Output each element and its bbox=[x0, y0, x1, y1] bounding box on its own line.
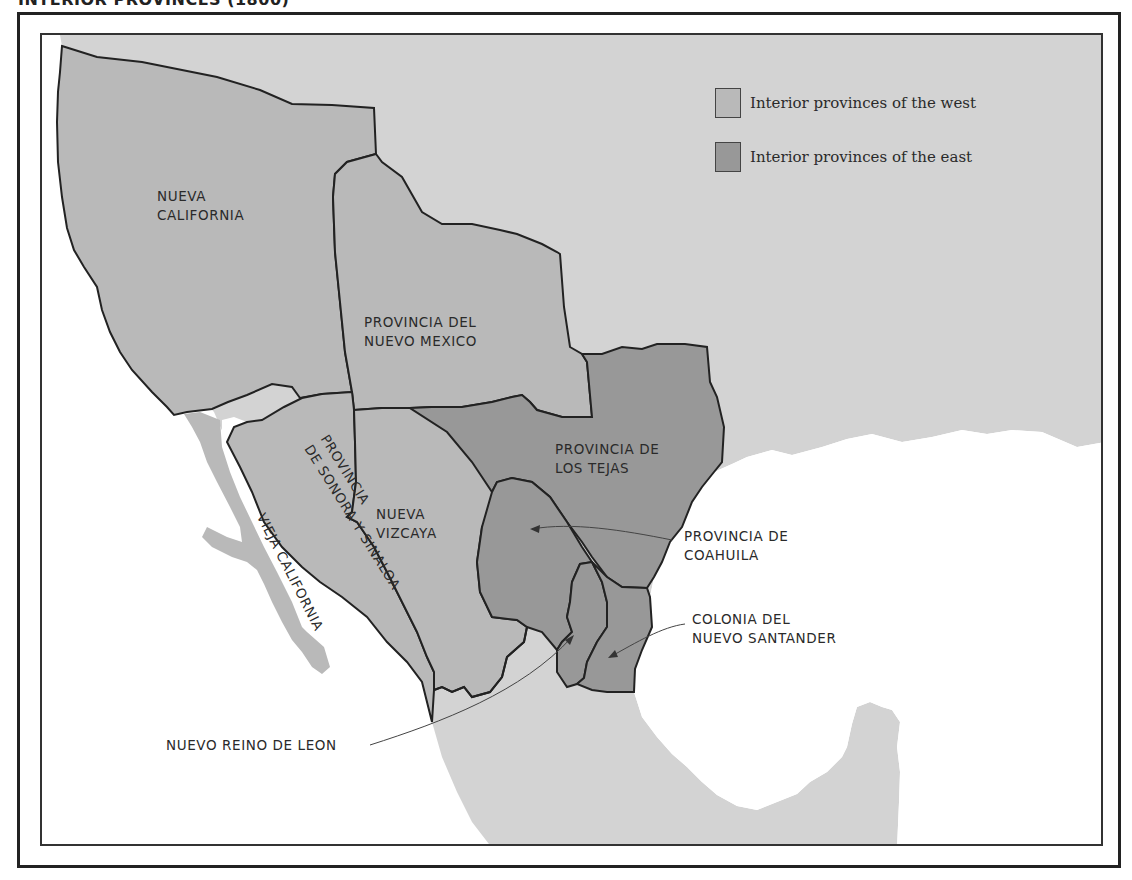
legend-item-east: Interior provinces of the east bbox=[715, 142, 976, 172]
map-legend: Interior provinces of the west Interior … bbox=[715, 88, 976, 196]
legend-label-east: Interior provinces of the east bbox=[750, 148, 972, 166]
label-nuevo-leon: NUEVO REINO DE LEON bbox=[166, 736, 337, 755]
map-title: INTERIOR PROVINCES (1800) bbox=[18, 0, 289, 9]
label-nuevo-santander: COLONIA DEL NUEVO SANTANDER bbox=[692, 610, 836, 648]
label-nueva-vizcaya: NUEVA VIZCAYA bbox=[376, 505, 437, 543]
legend-label-west: Interior provinces of the west bbox=[750, 94, 976, 112]
label-los-tejas: PROVINCIA DE LOS TEJAS bbox=[555, 440, 659, 478]
label-nuevo-mexico: PROVINCIA DEL NUEVO MEXICO bbox=[364, 313, 477, 351]
legend-swatch-west bbox=[715, 88, 741, 118]
label-coahuila: PROVINCIA DE COAHUILA bbox=[684, 527, 788, 565]
map-frame: NUEVA CALIFORNIA PROVINCIA DEL NUEVO MEX… bbox=[40, 33, 1103, 846]
legend-item-west: Interior provinces of the west bbox=[715, 88, 976, 118]
label-nueva-california: NUEVA CALIFORNIA bbox=[157, 187, 244, 225]
legend-swatch-east bbox=[715, 142, 741, 172]
